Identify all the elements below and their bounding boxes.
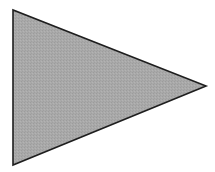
right-pointing-triangle [13, 10, 206, 165]
diagram-canvas [0, 0, 215, 172]
